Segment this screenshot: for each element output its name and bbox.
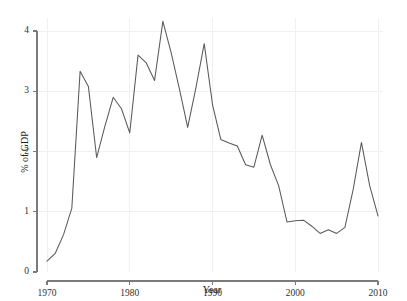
y-tick-label: 0 [18, 267, 29, 277]
x-axis-title: Year [203, 285, 221, 295]
line-chart: 01234 19701980199020002010 Year % of GDP [0, 0, 407, 301]
x-tick-label: 1980 [120, 289, 139, 299]
chart-plot-area [0, 0, 407, 301]
axis-ticks [33, 31, 378, 285]
x-tick-label: 2000 [286, 289, 305, 299]
y-tick-label: 4 [18, 26, 29, 36]
x-tick-label: 1970 [38, 289, 57, 299]
y-tick-label: 1 [18, 207, 29, 217]
y-axis-title: % of GDP [20, 131, 30, 173]
x-tick-label: 2010 [369, 289, 388, 299]
y-tick-label: 3 [18, 87, 29, 97]
grid-lines [39, 18, 383, 272]
